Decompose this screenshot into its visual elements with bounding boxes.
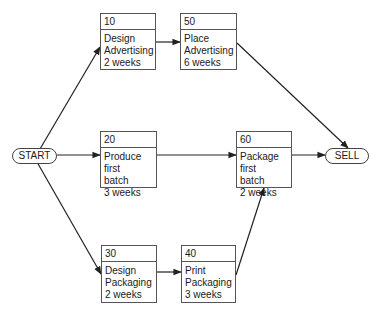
sell-node: SELL xyxy=(325,148,369,164)
activity-10: 10 Design Advertising 2 weeks xyxy=(100,13,156,70)
activity-name-line1: Package first xyxy=(240,151,288,175)
activity-name-line1: Produce first xyxy=(104,151,153,175)
activity-duration: 6 weeks xyxy=(184,57,233,69)
edge-40-60 xyxy=(236,188,264,275)
activity-duration: 2 weeks xyxy=(105,289,153,301)
activity-30: 30 Design Packaging 2 weeks xyxy=(101,245,157,303)
activity-duration: 2 weeks xyxy=(104,57,152,69)
activity-duration: 3 weeks xyxy=(185,289,232,301)
activity-id: 60 xyxy=(237,132,291,148)
activity-60: 60 Package first batch 2 weeks xyxy=(236,131,292,188)
activity-name-line1: Place xyxy=(184,33,233,45)
edge-start-30 xyxy=(37,162,101,274)
activity-20: 20 Produce first batch 3 weeks xyxy=(100,131,157,188)
start-label: START xyxy=(19,150,51,161)
activity-40: 40 Print Packaging 3 weeks xyxy=(181,245,236,303)
activity-name-line1: Design xyxy=(104,33,152,45)
activity-id: 30 xyxy=(102,246,156,262)
activity-id: 50 xyxy=(181,14,236,30)
activity-name-line2: Advertising xyxy=(104,45,152,57)
activity-name-line1: Print xyxy=(185,265,232,277)
activity-name-line2: Advertising xyxy=(184,45,233,57)
activity-name-line2: Packaging xyxy=(185,277,232,289)
activity-id: 20 xyxy=(101,132,156,148)
activity-name-line1: Design xyxy=(105,265,153,277)
activity-duration: 3 weeks xyxy=(104,187,153,199)
activity-50: 50 Place Advertising 6 weeks xyxy=(180,13,237,70)
activity-id: 10 xyxy=(101,14,155,30)
sell-label: SELL xyxy=(335,150,359,161)
activity-name-line2: Packaging xyxy=(105,277,153,289)
activity-duration: 2 weeks xyxy=(240,187,288,199)
activity-name-line2: batch xyxy=(240,175,288,187)
edge-start-10 xyxy=(40,47,100,149)
activity-id: 40 xyxy=(182,246,235,262)
activity-name-line2: batch xyxy=(104,175,153,187)
start-node: START xyxy=(12,148,57,164)
